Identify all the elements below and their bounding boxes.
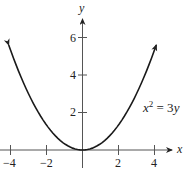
x-tick-label-2: 2 <box>115 157 121 169</box>
parabola-chart: y x 6 4 2 −4 −2 2 4 x2 = 3y <box>0 0 189 170</box>
y-tick-label-2: 2 <box>70 106 76 118</box>
x-tick-label-neg2: −2 <box>40 157 53 169</box>
y-tick-label-4: 4 <box>70 69 76 81</box>
x-axis-label: x <box>177 143 182 155</box>
x-tick-label-neg4: −4 <box>3 157 16 169</box>
plot-area <box>0 0 189 170</box>
equation-label: x2 = 3y <box>143 100 179 114</box>
x-tick-label-4: 4 <box>151 157 157 169</box>
y-tick-label-6: 6 <box>70 32 76 44</box>
y-axis-label: y <box>79 2 84 14</box>
